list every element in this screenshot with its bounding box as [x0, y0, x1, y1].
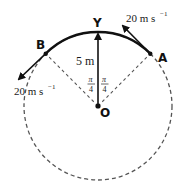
svg-text:−1: −1: [48, 83, 56, 91]
velocity-label-a: 20 m s −1: [126, 10, 168, 24]
velocity-arrow-b: [19, 54, 46, 79]
svg-text:π: π: [89, 75, 94, 84]
svg-text:20 m s: 20 m s: [126, 12, 155, 24]
angle-left-fraction: π 4: [88, 75, 96, 94]
svg-text:−1: −1: [160, 10, 168, 18]
circular-motion-diagram: Y A B O 5 m π 4 π 4 20 m s −1 20 m s −1: [0, 0, 184, 193]
svg-text:4: 4: [89, 85, 93, 94]
svg-text:π: π: [102, 75, 107, 84]
velocity-arrow-a: [123, 26, 150, 54]
point-b-dot: [44, 52, 48, 56]
label-o: O: [100, 106, 110, 120]
radius-label: 5 m: [76, 54, 95, 68]
label-y: Y: [92, 16, 102, 30]
label-a: A: [158, 51, 168, 65]
svg-text:4: 4: [103, 85, 107, 94]
velocity-label-b: 20 m s −1: [14, 83, 56, 97]
label-b: B: [36, 38, 45, 52]
point-a-dot: [148, 52, 152, 56]
angle-right-fraction: π 4: [101, 75, 109, 94]
svg-text:20 m s: 20 m s: [14, 85, 43, 97]
